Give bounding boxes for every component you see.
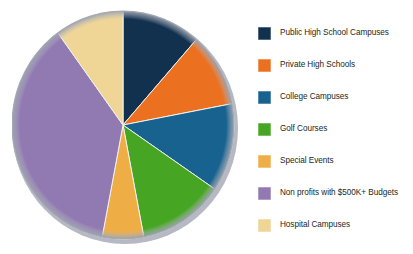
legend-item[interactable]: Special Events — [258, 146, 413, 176]
chart-legend: Public High School CampusesPrivate High … — [258, 18, 413, 242]
legend-swatch-icon — [258, 123, 271, 136]
pie-rim-shading — [12, 11, 234, 239]
legend-swatch-icon — [258, 91, 271, 104]
legend-item[interactable]: Golf Courses — [258, 114, 413, 144]
legend-label: College Campuses — [280, 92, 348, 102]
legend-item[interactable]: Hospital Campuses — [258, 210, 413, 240]
legend-swatch-icon — [258, 155, 271, 168]
pie-chart-figure: Public High School CampusesPrivate High … — [0, 0, 413, 254]
legend-swatch-icon — [258, 187, 271, 200]
legend-swatch-icon — [258, 27, 271, 40]
chart-title — [0, 0, 260, 5]
legend-swatch-icon — [258, 219, 271, 232]
pie-svg — [12, 6, 244, 248]
legend-label: Public High School Campuses — [280, 28, 389, 38]
legend-label: Non profits with $500K+ Budgets — [280, 188, 398, 198]
legend-label: Hospital Campuses — [280, 220, 350, 230]
legend-item[interactable]: Public High School Campuses — [258, 18, 413, 48]
pie-chart-graphic — [12, 6, 244, 248]
legend-item[interactable]: Private High Schools — [258, 50, 413, 80]
legend-label: Special Events — [280, 156, 333, 166]
legend-swatch-icon — [258, 59, 271, 72]
legend-label: Private High Schools — [280, 60, 355, 70]
legend-item[interactable]: Non profits with $500K+ Budgets — [258, 178, 413, 208]
legend-item[interactable]: College Campuses — [258, 82, 413, 112]
legend-label: Golf Courses — [280, 124, 327, 134]
